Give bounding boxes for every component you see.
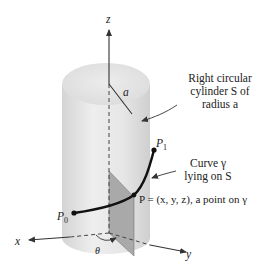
radius-label: a: [123, 86, 129, 98]
point-p: [132, 193, 137, 198]
cylinder-caption: Right circular cylinder S of radius a: [170, 72, 268, 111]
curve-caption-line1: Curve γ: [168, 157, 248, 170]
theta-label: θ: [95, 245, 100, 257]
cylinder-caption-line3: radius a: [170, 98, 268, 111]
diagram-graphic: [0, 0, 268, 271]
point-p0: [71, 210, 76, 215]
curve-caption: Curve γ lying on S: [168, 157, 248, 183]
y-axis: [150, 245, 186, 252]
cylinder-diagram: z a x y θ Right circular cylinder S of r…: [0, 0, 268, 271]
point-caption: P = (x, y, z), a point on γ: [139, 193, 247, 205]
cylinder-caption-line2: cylinder S of: [170, 85, 268, 98]
x-axis-label: x: [15, 235, 20, 247]
curve-caption-line2: lying on S: [168, 170, 248, 183]
p1-label: P1: [156, 137, 167, 154]
z-axis-label: z: [106, 13, 110, 25]
cylinder: [62, 63, 150, 254]
cylinder-caption-line1: Right circular: [170, 72, 268, 85]
y-axis-label: y: [186, 248, 191, 260]
p0-label: P0: [57, 210, 68, 227]
